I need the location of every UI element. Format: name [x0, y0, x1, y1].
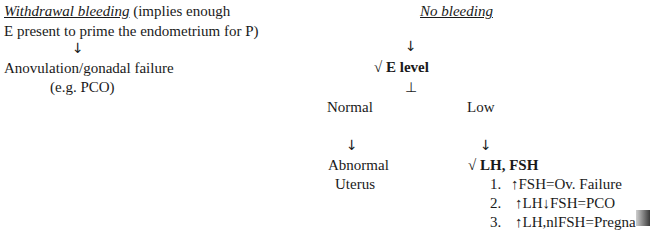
low-label: Low: [467, 98, 495, 116]
uterus-label: Uterus: [335, 175, 375, 193]
abnormal-label: Abnormal: [328, 156, 389, 174]
result-text: ↑LH,nlFSH=Pregna: [515, 214, 636, 230]
result-text: ↑LH↓FSH=PCO: [515, 195, 615, 211]
page-curl-shadow: [636, 210, 650, 226]
anovulation-result: Anovulation/gonadal failure: [4, 59, 174, 77]
result-text: ↑FSH=Ov. Failure: [511, 176, 622, 192]
estrogen-level-test: √ E level: [374, 58, 429, 76]
result-item-2: 2. ↑LH↓FSH=PCO: [490, 194, 615, 212]
result-item-1: 1. ↑FSH=Ov. Failure: [490, 175, 622, 193]
result-number: 1.: [490, 176, 501, 192]
no-bleeding-heading: No bleeding: [420, 2, 493, 20]
down-arrow-icon: ↓: [405, 37, 417, 55]
result-number: 2.: [490, 195, 501, 211]
down-arrow-icon: ↓: [480, 136, 492, 154]
withdrawal-bleeding-line: Withdrawal bleeding (implies enough: [4, 2, 230, 20]
result-number: 3.: [490, 214, 501, 230]
withdrawal-bleeding-note: (implies enough: [129, 3, 230, 19]
result-item-3: 3. ↑LH,nlFSH=Pregna: [490, 213, 636, 231]
normal-label: Normal: [327, 98, 373, 116]
down-arrow-icon: ↓: [72, 39, 84, 57]
lh-fsh-test: √ LH, FSH: [468, 156, 538, 174]
estrogen-note: E present to prime the endometrium for P…: [4, 22, 259, 40]
withdrawal-bleeding-heading: Withdrawal bleeding: [4, 3, 129, 19]
branch-icon: ⊥: [405, 78, 417, 96]
pco-example: (e.g. PCO): [50, 78, 115, 96]
down-arrow-icon: ↓: [346, 136, 358, 154]
